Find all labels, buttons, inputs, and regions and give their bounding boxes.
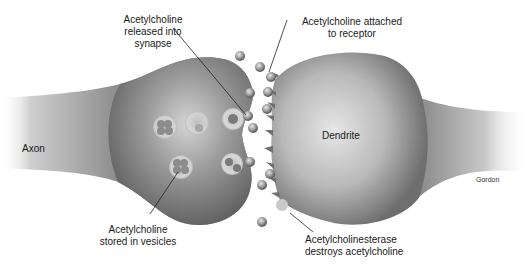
callout-stored: Acetylcholine stored in vesicles	[86, 224, 190, 248]
label-axon: Axon	[22, 143, 45, 155]
callout-stored-line2: stored in vesicles	[86, 236, 190, 248]
callout-esterase-line2: destroys acetylcholine	[305, 246, 403, 258]
dendrite-tail-shape	[420, 98, 528, 196]
callout-attached-line2: to receptor	[287, 28, 417, 40]
callout-attached-line1: Acetylcholine attached	[287, 16, 417, 28]
synapse-illustration	[0, 0, 528, 265]
callout-released-line1: Acetylcholine	[103, 14, 203, 26]
callout-released: Acetylcholine released into synapse	[103, 14, 203, 50]
label-dendrite: Dendrite	[322, 130, 360, 142]
leader-line-attached	[269, 20, 287, 72]
callout-attached: Acetylcholine attached to receptor	[287, 16, 417, 40]
callout-released-line2: released into	[103, 26, 203, 38]
callout-stored-line1: Acetylcholine	[86, 224, 190, 236]
credit-label: Gordon	[476, 174, 499, 186]
synapse-diagram: Acetylcholine released into synapse Acet…	[0, 0, 528, 265]
callout-esterase-line1: Acetylcholinesterase	[305, 234, 403, 246]
callout-esterase: Acetylcholinesterase destroys acetylchol…	[305, 234, 403, 258]
axon-terminal-shape	[108, 57, 252, 225]
callout-released-line3: synapse	[103, 38, 203, 50]
